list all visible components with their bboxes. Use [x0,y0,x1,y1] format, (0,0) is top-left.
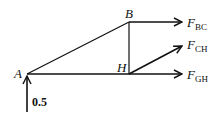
force-arrow-FCH [129,46,182,74]
force-label-FGH: FGH [186,67,208,84]
node-label-H: H [116,60,127,75]
node-label-B: B [125,6,133,21]
force-label-FBC: FBC [186,15,207,32]
member-AB [27,22,129,74]
force-label-FCH: FCH [186,37,208,54]
reaction-value-label: 0.5 [32,95,47,109]
node-label-A: A [13,66,22,81]
truss-free-body-diagram: A B H FBC FCH FGH 0.5 [0,0,217,119]
